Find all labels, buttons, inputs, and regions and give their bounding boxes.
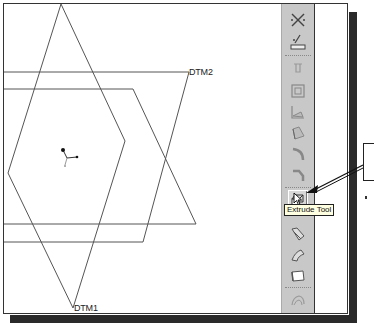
rib-tool-button[interactable] [288,102,308,122]
extrude-tool-tooltip: Extrude Tool [284,204,334,216]
chamfer-icon [289,166,307,184]
graphics-window: DTM2 DTM1 [3,3,348,314]
hole-tool-button[interactable] [288,60,308,80]
datum-plane-tool-button[interactable] [288,10,308,30]
rib-icon [289,103,307,121]
style-icon [289,292,307,310]
dtm2-plane-b [3,89,196,224]
callout-label-box [363,143,374,181]
sketch-tool-button[interactable] [288,32,308,52]
window-shadow-bottom [10,315,357,323]
chamfer-tool-button[interactable] [288,165,308,185]
blend-tool-button[interactable] [288,266,308,286]
callout-marker [365,196,367,199]
datum-planes-drawing [3,3,281,314]
draft-icon [289,124,307,142]
round-icon [289,145,307,163]
shell-icon [289,82,307,100]
dtm2-plane-a [3,72,189,242]
window-shadow-right [349,12,357,323]
revolve-tool-button[interactable] [288,224,308,244]
datum-label-dtm2: DTM2 [189,67,213,77]
dtm1-plane-b [8,4,73,308]
round-tool-button[interactable] [288,144,308,164]
toolbar-separator [285,55,311,56]
hole-icon [289,61,307,79]
toolbar-separator [285,187,311,188]
draft-tool-button[interactable] [288,123,308,143]
sweep-icon [289,246,307,264]
shell-tool-button[interactable] [288,81,308,101]
csys-icon [61,148,78,167]
graphics-canvas[interactable]: DTM2 DTM1 [4,4,281,313]
dtm1-plane-a [61,4,125,308]
datum-plane-icon [289,11,307,29]
revolve-icon [289,225,307,243]
style-tool-button[interactable] [288,291,308,311]
sweep-tool-button[interactable] [288,245,308,265]
blend-icon [289,267,307,285]
sketch-icon [289,33,307,51]
datum-label-dtm1: DTM1 [74,303,98,313]
feature-toolbar [281,4,315,313]
toolbar-separator [285,287,311,288]
